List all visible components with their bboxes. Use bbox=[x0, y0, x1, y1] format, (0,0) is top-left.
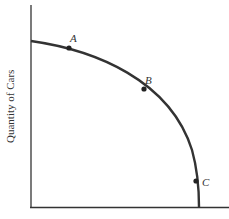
label-c: C bbox=[202, 176, 210, 188]
label-a: A bbox=[69, 32, 77, 44]
point-c bbox=[193, 178, 198, 183]
point-b bbox=[141, 86, 146, 91]
label-b: B bbox=[145, 74, 152, 86]
ppf-curve bbox=[31, 41, 199, 207]
point-a bbox=[66, 45, 71, 50]
ppf-diagram: A B C Quantity of Cars bbox=[0, 0, 229, 219]
y-axis-label: Quantity of Cars bbox=[4, 70, 16, 143]
